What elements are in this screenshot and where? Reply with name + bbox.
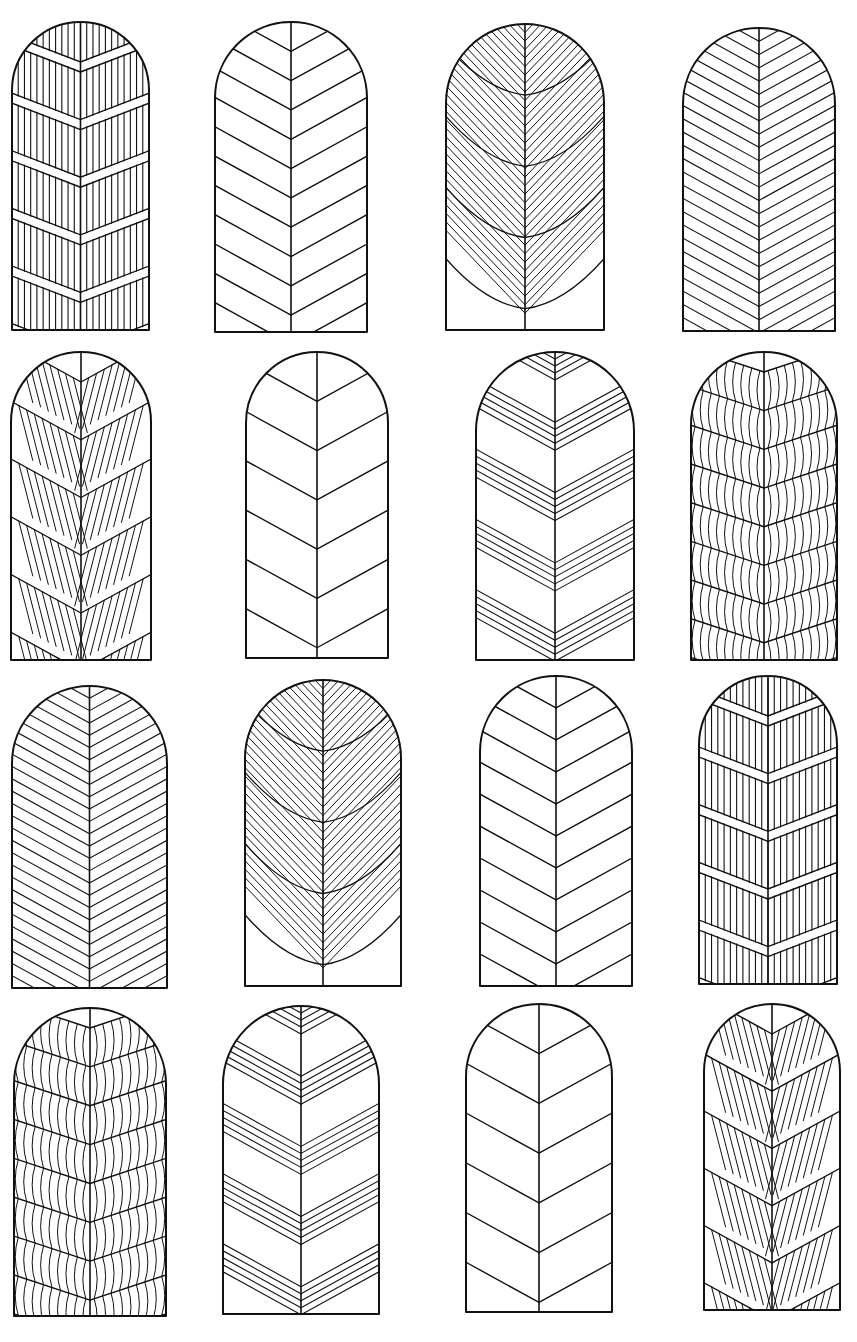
feather-icon xyxy=(11,352,151,660)
feather-tile-r1c4 xyxy=(683,28,835,331)
feather-tile-r1c2 xyxy=(215,22,367,332)
feather-icon xyxy=(14,1008,166,1316)
feather-tile-r3c3 xyxy=(480,676,632,986)
feather-tile-r2c4 xyxy=(691,352,837,660)
feather-tile-r3c1 xyxy=(12,686,167,988)
feather-icon xyxy=(704,1004,840,1310)
feather-icon xyxy=(245,680,401,986)
feather-tile-r3c4 xyxy=(699,676,837,984)
feather-icon xyxy=(466,1004,612,1312)
feather-tile-r3c2 xyxy=(245,680,401,986)
feather-icon xyxy=(691,352,837,660)
feather-tile-r2c3 xyxy=(476,352,634,660)
feather-tile-r1c3 xyxy=(446,24,604,330)
feather-pattern-illustration xyxy=(0,0,857,1342)
feather-tile-r1c1 xyxy=(12,22,149,330)
feather-icon xyxy=(446,24,604,330)
feather-icon xyxy=(683,28,835,331)
feather-icon xyxy=(480,676,632,986)
feather-icon xyxy=(12,22,149,330)
feather-tile-r4c4 xyxy=(704,1004,840,1310)
feather-tile-r4c3 xyxy=(466,1004,612,1312)
feather-icon xyxy=(246,352,388,658)
feather-tile-r4c2 xyxy=(223,1006,379,1314)
feather-icon xyxy=(223,1006,379,1314)
feather-icon xyxy=(215,22,367,332)
feather-icon xyxy=(699,676,837,984)
feather-tile-r4c1 xyxy=(14,1008,166,1316)
feather-icon xyxy=(12,686,167,988)
feather-tile-r2c1 xyxy=(11,352,151,660)
feather-tile-r2c2 xyxy=(246,352,388,658)
feather-icon xyxy=(476,352,634,660)
